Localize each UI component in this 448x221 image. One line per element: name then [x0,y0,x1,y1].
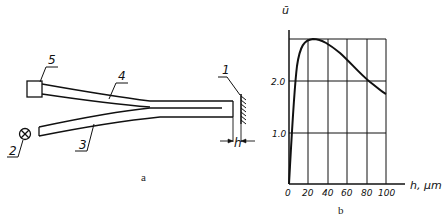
svg-text:40: 40 [322,188,334,198]
svg-text:60: 60 [341,188,353,198]
detector-box [27,81,42,97]
label-emitting-fiber: 3 [79,138,87,152]
y-tick-2: 2.0 [271,77,286,87]
svg-text:0: 0 [285,188,291,198]
x-tick-labels: 0 20 40 60 80 100 [285,188,395,198]
label-detector: 5 [48,53,56,67]
emitting-fiber [39,108,233,136]
chart-grid [289,39,386,184]
label-mirror: 1 [222,63,230,77]
svg-text:100: 100 [378,188,395,198]
fiber-optic-sensor-diagram [7,67,255,157]
chart-curve [289,39,386,184]
label-gap-h: h [234,136,242,150]
label-lamp: 2 [9,144,17,158]
x-axis-label: h, μm [410,179,442,192]
y-axis-label: ū [282,4,289,17]
figure: 5 4 3 2 1 h a ū 2.0 1.0 0 20 40 60 80 10… [0,0,448,221]
label-receiving-fiber: 4 [118,69,126,83]
svg-text:20: 20 [302,188,314,198]
caption-a: a [141,171,146,183]
receiving-fiber [42,84,233,107]
caption-b: b [338,204,344,216]
svg-text:80: 80 [361,188,373,198]
y-tick-1: 1.0 [272,129,287,139]
